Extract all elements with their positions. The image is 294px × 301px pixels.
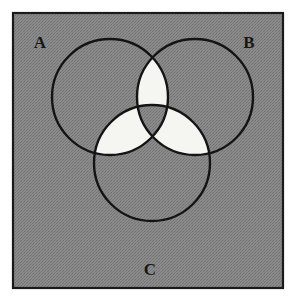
- venn-diagram-figure: A B C: [0, 0, 294, 301]
- set-label-c: C: [144, 260, 156, 279]
- set-label-a: A: [34, 33, 47, 52]
- venn-diagram-svg: A B C: [0, 0, 294, 301]
- set-label-b: B: [243, 33, 254, 52]
